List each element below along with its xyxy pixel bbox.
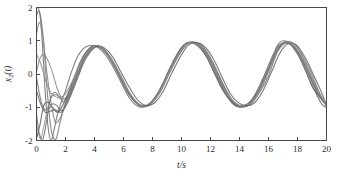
plot-frame <box>37 8 327 141</box>
trajectory-layer <box>37 7 327 140</box>
x-tick-label: 12 <box>206 144 215 154</box>
x-tick-label: 20 <box>322 144 332 154</box>
chart-root: 02468101214161820-2-1012 t/sx2(t) <box>0 0 337 177</box>
line-chart: 02468101214161820-2-1012 t/sx2(t) <box>0 0 337 177</box>
axes-frame <box>37 8 327 141</box>
trajectory-line <box>37 42 327 138</box>
trajectory-line <box>37 7 327 140</box>
x-tick-label: 6 <box>121 144 126 154</box>
x-tick-label: 16 <box>264 144 274 154</box>
svg-text:x2(t): x2(t) <box>3 66 14 83</box>
y-tick-label: -1 <box>25 102 33 112</box>
y-tick-label: 1 <box>28 36 33 46</box>
trajectory-line <box>37 11 327 140</box>
x-tick-label: 4 <box>92 144 97 154</box>
trajectory-line <box>37 42 327 139</box>
trajectory-line <box>37 42 327 139</box>
axis-label-layer: t/sx2(t) <box>3 66 186 170</box>
y-tick-label: 0 <box>28 69 33 79</box>
x-tick-label: 10 <box>177 144 187 154</box>
x-tick-label: 14 <box>235 144 245 154</box>
x-tick-label: 18 <box>293 144 303 154</box>
y-tick-label: 2 <box>28 3 33 13</box>
x-tick-label: 8 <box>150 144 155 154</box>
y-tick-label: -2 <box>25 136 33 146</box>
x-tick-label: 0 <box>34 144 39 154</box>
x-tick-label: 2 <box>63 144 68 154</box>
tick-layer: 02468101214161820-2-1012 <box>25 3 332 154</box>
x-axis-label: t/s <box>177 160 186 170</box>
y-axis-label: x2(t) <box>3 66 14 83</box>
